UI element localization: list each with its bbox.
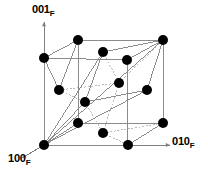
crystal-structure-figure: 001F 100F 010F [0, 0, 208, 174]
lattice-edge-solid-21 [44, 58, 59, 90]
lattice-atom [54, 85, 64, 95]
lattice-edge-solid-19 [44, 90, 147, 145]
lattice-atom [73, 118, 83, 128]
lattice-edge-solid-22 [59, 40, 78, 90]
lattice-atom [80, 97, 90, 107]
axis-001-arrowhead [42, 22, 46, 26]
axis-label-001: 001F [32, 3, 54, 18]
lattice-atom [122, 55, 132, 65]
axis-label-010: 010F [172, 135, 194, 150]
lattice-edge-dashed-8 [103, 52, 119, 83]
axis-label-001-index: 001 [32, 3, 50, 15]
lattice-edge-dashed-5 [103, 123, 163, 133]
axis-label-100: 100F [8, 152, 30, 167]
lattice-edge-solid-10 [128, 123, 163, 145]
axis-010-arrowhead [166, 143, 170, 147]
axis-label-001-subscript: F [50, 9, 55, 18]
lattice-atom [158, 118, 168, 128]
lattice-atom [142, 85, 152, 95]
lattice-edge-solid-13 [44, 52, 103, 145]
lattice-atom [98, 47, 108, 57]
lattice-atom [98, 128, 108, 138]
axis-label-100-index: 100 [8, 152, 26, 164]
lattice-atom [39, 53, 49, 63]
lattice-atom [114, 78, 124, 88]
lattice-atom [123, 140, 133, 150]
axis-label-010-subscript: F [190, 141, 195, 150]
axis-label-100-subscript: F [26, 158, 31, 167]
lattice-edge-solid-1 [44, 40, 78, 58]
lattice-atom [73, 35, 83, 45]
lattice-edge-solid-3 [44, 58, 127, 60]
axis-label-010-index: 010 [172, 135, 190, 147]
lattice-edge-solid-11 [44, 123, 78, 145]
lattice-atom [158, 35, 168, 45]
lattice-edge-solid-14 [103, 40, 163, 52]
lattice-atom [39, 140, 49, 150]
